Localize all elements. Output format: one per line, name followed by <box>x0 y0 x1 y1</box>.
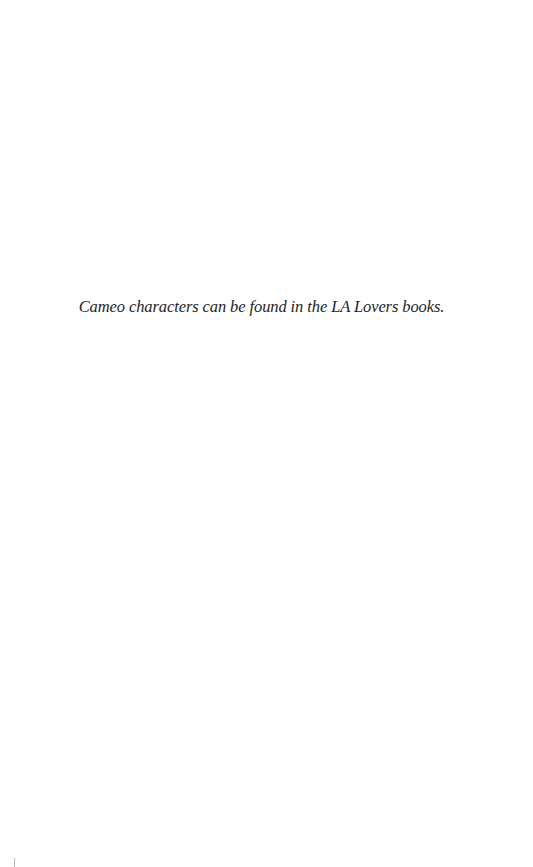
book-page: Cameo characters can be found in the LA … <box>0 0 533 867</box>
scan-artifact <box>14 858 15 867</box>
cameo-note: Cameo characters can be found in the LA … <box>0 297 523 317</box>
